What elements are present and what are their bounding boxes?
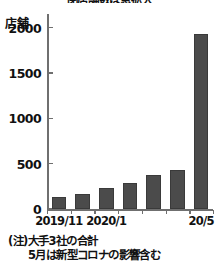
- y-tick-mark: [49, 27, 53, 28]
- y-axis-line: [47, 14, 49, 210]
- bar-chart-figure: 閉店舗数は急拡大 店舗 0500100015002000 2019/112020…: [0, 0, 219, 265]
- y-tick-mark: [49, 72, 53, 73]
- y-tick-label: 500: [17, 156, 41, 171]
- bar: [146, 175, 161, 209]
- x-tick-mark: [166, 210, 167, 214]
- x-tick-label: 20/5: [188, 214, 213, 228]
- bar: [194, 34, 209, 209]
- bar: [75, 194, 90, 209]
- y-tick-label: 1000: [9, 111, 41, 126]
- footnote-line-2: 5月は新型コロナの影響含む: [8, 248, 219, 262]
- plot-area: 0500100015002000 2019/112020/120/5: [47, 14, 213, 210]
- y-tick-label: 2000: [9, 20, 41, 35]
- footnote-line-1: (注)大手3社の合計: [8, 234, 98, 248]
- chart-footnote: (注)大手3社の合計 5月は新型コロナの影響含む: [8, 234, 219, 262]
- bar: [123, 183, 138, 209]
- y-tick-label: 1500: [9, 65, 41, 80]
- bar: [52, 197, 67, 209]
- x-tick-mark: [142, 210, 143, 214]
- bar: [99, 188, 114, 209]
- bar: [170, 170, 185, 209]
- y-tick-mark: [49, 163, 53, 164]
- x-tick-label: 2019/11: [35, 214, 82, 228]
- chart-title: 閉店舗数は急拡大: [0, 0, 219, 3]
- x-tick-label: 2020/1: [86, 214, 126, 228]
- y-tick-mark: [49, 118, 53, 119]
